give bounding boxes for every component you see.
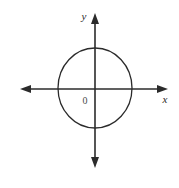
y-axis-label: y bbox=[81, 10, 87, 22]
coordinate-plane-figure: y x 0 bbox=[0, 0, 179, 188]
x-axis-label: x bbox=[162, 93, 168, 105]
origin-label: 0 bbox=[83, 95, 88, 106]
y-axis-top-arrowhead bbox=[91, 13, 99, 24]
x-axis-right-arrowhead bbox=[157, 85, 168, 93]
coordinate-plane-canvas: y x 0 bbox=[0, 0, 179, 188]
x-axis-left-arrowhead bbox=[20, 85, 31, 93]
y-axis-bottom-arrowhead bbox=[91, 157, 99, 168]
